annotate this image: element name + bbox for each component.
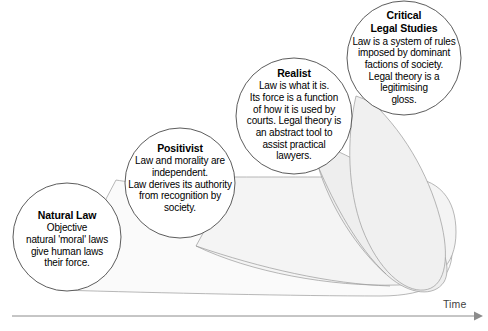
time-axis-arrowhead-icon	[474, 312, 483, 321]
circle-positivist[interactable]	[125, 128, 235, 238]
time-axis-label: Time	[443, 298, 466, 310]
circle-natural-law[interactable]	[13, 183, 121, 291]
circle-realist[interactable]	[236, 58, 352, 174]
time-axis	[12, 312, 483, 321]
diagram-canvas	[0, 0, 488, 331]
circle-critical-legal-studies[interactable]	[347, 1, 461, 115]
legal-theory-timeline-diagram: Natural Law Objective natural 'moral' la…	[0, 0, 488, 331]
